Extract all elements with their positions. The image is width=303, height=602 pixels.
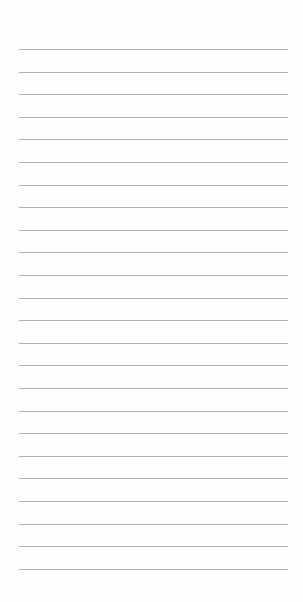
ruled-line xyxy=(19,456,288,457)
ruled-line xyxy=(19,230,288,231)
ruled-line xyxy=(19,298,288,299)
ruled-line xyxy=(19,252,288,253)
ruled-line xyxy=(19,478,288,479)
ruled-line xyxy=(19,320,288,321)
ruled-line xyxy=(19,343,288,344)
ruled-line xyxy=(19,501,288,502)
ruled-line xyxy=(19,433,288,434)
ruled-line xyxy=(19,49,288,50)
ruled-line xyxy=(19,275,288,276)
ruled-line xyxy=(19,185,288,186)
ruled-line xyxy=(19,388,288,389)
ruled-line xyxy=(19,569,288,570)
ruled-line xyxy=(19,546,288,547)
lined-paper xyxy=(0,0,303,602)
ruled-line xyxy=(19,411,288,412)
ruled-line xyxy=(19,72,288,73)
ruled-line xyxy=(19,94,288,95)
ruled-line xyxy=(19,117,288,118)
ruled-line xyxy=(19,365,288,366)
ruled-line xyxy=(19,162,288,163)
ruled-line xyxy=(19,207,288,208)
ruled-line xyxy=(19,139,288,140)
ruled-line xyxy=(19,524,288,525)
